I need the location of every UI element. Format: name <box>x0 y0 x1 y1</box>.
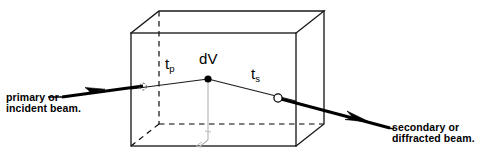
tp-subscript: p <box>169 63 174 74</box>
diagram-figure: primary or incident beam. secondary or d… <box>0 0 482 159</box>
cube-group <box>131 11 324 146</box>
cube-hidden-edges <box>131 11 324 146</box>
dv-label: dV <box>199 51 218 67</box>
dv-drop-line-group <box>196 79 211 147</box>
beam-exit-point-marker <box>274 94 282 102</box>
cube-visible-edges <box>131 11 324 146</box>
ts-subscript: s <box>255 73 260 84</box>
hidden-edge-back-bottom-left <box>131 124 159 146</box>
internal-ray-paths <box>131 79 296 101</box>
tp-label: tp <box>165 56 175 72</box>
ts-label: ts <box>251 66 260 82</box>
secondary-beam-label: secondary or diffracted beam. <box>392 122 475 145</box>
secondary-beam-group <box>274 94 390 128</box>
path-ts-segment <box>208 79 296 101</box>
secondary-beam-line <box>281 99 390 128</box>
dv-base-hook <box>205 131 211 132</box>
cube-right-face <box>296 11 324 146</box>
cube-top-face <box>131 11 324 33</box>
dv-point-marker <box>204 75 211 82</box>
primary-beam-label: primary or incident beam. <box>6 92 81 115</box>
